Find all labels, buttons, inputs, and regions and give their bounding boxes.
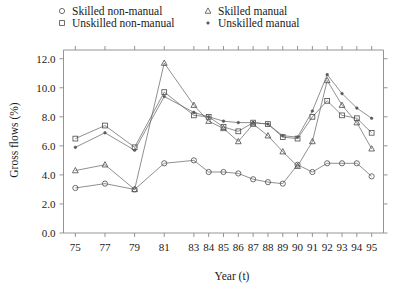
data-point-dot (341, 92, 344, 95)
y-axis-title: Gross flows (%) (8, 102, 21, 178)
x-tick-label: 92 (322, 241, 333, 253)
legend-item-skilled-manual[interactable]: Skilled manual (205, 5, 287, 17)
data-point-dot (163, 95, 166, 98)
gross-flows-line-chart: Skilled non-manualUnskilled non-manualSk… (0, 0, 401, 290)
x-tick-label: 85 (218, 241, 230, 253)
y-tick-label: 12.0 (36, 53, 56, 65)
data-point-dot (222, 120, 225, 123)
x-tick-label: 75 (70, 241, 82, 253)
data-point-dot (296, 136, 299, 139)
data-point-dot (252, 121, 255, 124)
x-tick-label: 94 (351, 241, 363, 253)
data-point-dot (267, 123, 270, 126)
y-tick-label: 6.0 (42, 140, 56, 152)
legend-label: Unskilled manual (218, 17, 299, 29)
x-tick-label: 95 (366, 241, 378, 253)
legend-item-skilled-non-manual[interactable]: Skilled non-manual (59, 5, 162, 17)
legend-label: Skilled non-manual (72, 5, 162, 17)
data-point-dot (281, 134, 284, 137)
data-point-dot (193, 111, 196, 114)
data-point-dot (237, 121, 240, 124)
legend-label: Unskilled non-manual (72, 17, 175, 29)
x-tick-label: 81 (159, 241, 170, 253)
x-tick-label: 90 (292, 241, 304, 253)
y-tick-label: 4.0 (42, 169, 56, 181)
chart-figure: Skilled non-manualUnskilled non-manualSk… (0, 0, 401, 290)
x-tick-label: 77 (99, 241, 111, 253)
data-point-dot (133, 149, 136, 152)
x-tick-label: 79 (129, 241, 141, 253)
legend-item-unskilled-manual[interactable]: Unskilled manual (207, 17, 300, 29)
data-point-dot (104, 131, 107, 134)
legend-label: Skilled manual (218, 5, 287, 17)
data-point-dot (207, 115, 210, 118)
x-tick-label: 93 (337, 241, 349, 253)
legend-marker-dot-icon (207, 22, 210, 25)
x-axis-title: Year (t) (215, 270, 250, 283)
x-tick-label: 86 (233, 241, 245, 253)
data-point-dot (370, 117, 373, 120)
x-tick-label: 87 (248, 241, 260, 253)
y-tick-label: 0.0 (42, 227, 56, 239)
x-tick-label: 83 (188, 241, 200, 253)
data-point-dot (355, 107, 358, 110)
y-tick-label: 10.0 (36, 82, 56, 94)
legend-item-unskilled-non-manual[interactable]: Unskilled non-manual (60, 17, 175, 29)
data-point-dot (311, 110, 314, 113)
x-tick-label: 89 (277, 241, 289, 253)
data-point-dot (74, 146, 77, 149)
data-point-dot (326, 73, 329, 76)
x-tick-label: 84 (203, 241, 215, 253)
x-tick-label: 88 (262, 241, 274, 253)
x-tick-label: 91 (307, 241, 318, 253)
y-tick-label: 8.0 (42, 111, 56, 123)
y-tick-label: 2.0 (42, 198, 56, 210)
